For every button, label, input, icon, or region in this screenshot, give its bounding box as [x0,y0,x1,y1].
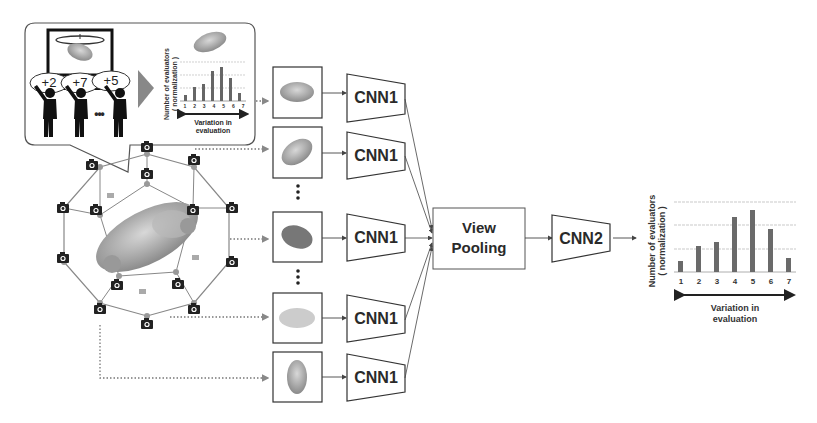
diagram-canvas [0,0,817,423]
view-to-cnn-arrows [322,93,346,377]
output-y-axis-label: Number of evaluators( normalization ) [647,186,667,296]
cnn1-label: CNN1 [347,89,405,107]
score-label: +7 [67,75,93,90]
cnn2-label: CNN2 [552,230,610,248]
view-pooling-label: ViewPooling [433,218,525,258]
inset-x-ticks: 1234567 [180,103,248,109]
cnn1-label: CNN1 [347,147,405,165]
people-ellipsis: ••• [88,107,110,121]
score-label: +2 [36,75,62,90]
output-bars [678,210,791,272]
output-x-axis-label: Variation inevaluation [690,303,780,325]
output-x-ticks: 1234567 [672,277,798,286]
cnn1-label: CNN1 [347,229,405,247]
cnn1-label: CNN1 [347,369,405,387]
score-label: +5 [98,73,124,88]
car-model [85,188,208,286]
camera-rig [57,141,238,329]
cnn1-label: CNN1 [347,310,405,328]
cnn-to-pooling-arrows [405,99,432,378]
inset-x-axis-label: Variation inevaluation [180,119,246,135]
inset-y-axis-label: Number of evaluators( normalization ) [163,39,179,129]
